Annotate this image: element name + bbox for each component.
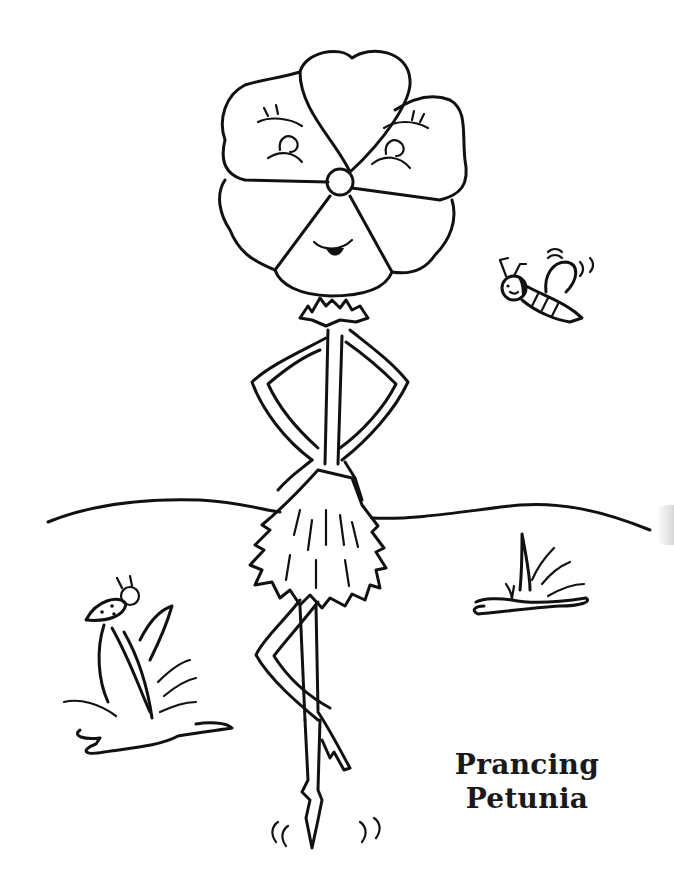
- body-arms: [252, 330, 408, 500]
- flower-head: [220, 51, 467, 296]
- horizon-line: [48, 500, 650, 530]
- ladybug: [86, 576, 139, 620]
- title-line-2: Petunia: [452, 782, 602, 816]
- legs: [256, 600, 380, 848]
- coloring-page: Prancing Petunia: [0, 0, 674, 888]
- title-line-1: Prancing: [452, 748, 602, 782]
- page-title: Prancing Petunia: [452, 748, 602, 816]
- grass-tuft-right: [474, 534, 587, 614]
- grass-tuft-left: [64, 606, 232, 753]
- page-edge-shadow: [656, 505, 674, 545]
- neck-leaves: [300, 298, 368, 326]
- bee: [500, 249, 593, 322]
- leafy-skirt: [250, 470, 386, 608]
